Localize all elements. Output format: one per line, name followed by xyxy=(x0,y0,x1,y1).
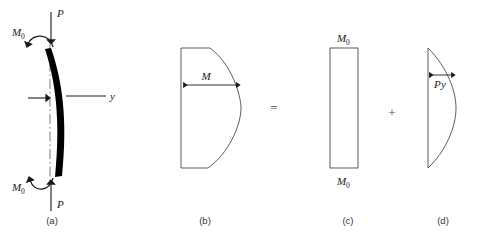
load-label-bottom: P xyxy=(56,198,64,210)
py-dimension-label: P y xyxy=(433,78,446,90)
moment-label-c-top-sub: 0 xyxy=(346,38,350,47)
panel-d-py-moment-diagram: P y (d) xyxy=(428,48,456,226)
py-dimension-label-p: P xyxy=(433,78,441,90)
panel-b-total-moment-diagram: M (b) xyxy=(181,48,241,226)
moment-label-c-bottom-sub: 0 xyxy=(346,181,350,190)
figure-canvas: P M 0 y M 0 xyxy=(0,0,480,240)
figure-container: P M 0 y M 0 xyxy=(0,0,480,240)
load-label-top: P xyxy=(56,7,64,19)
moment-diagram-b-shape xyxy=(181,48,241,168)
caption-panel-c: (c) xyxy=(342,215,353,226)
moment-arc-bottom-path xyxy=(30,178,53,189)
caption-panel-b: (b) xyxy=(199,215,211,226)
moment-label-bottom-sub: 0 xyxy=(21,187,25,196)
buckled-column-beam xyxy=(45,48,64,177)
equals-operator: = xyxy=(270,100,277,115)
moment-diagram-c-rect xyxy=(330,48,358,168)
moment-dimension-label-b: M xyxy=(200,70,211,82)
plus-operator: + xyxy=(388,105,395,120)
panel-c-uniform-moment-diagram: M 0 M 0 (c) xyxy=(330,32,358,226)
deflection-axis-label: y xyxy=(109,90,115,102)
caption-panel-d: (d) xyxy=(437,215,449,226)
moment-label-c-top: M 0 xyxy=(336,32,350,47)
moment-label-top-sub: 0 xyxy=(21,32,25,41)
moment-arc-top xyxy=(28,36,53,47)
moment-label-c-bottom: M 0 xyxy=(336,175,350,190)
moment-label-top: M 0 xyxy=(11,26,25,41)
moment-arc-top-path xyxy=(28,36,53,47)
panel-a-free-body-diagram: P M 0 y M 0 xyxy=(11,7,115,226)
moment-arc-bottom xyxy=(30,178,53,189)
caption-panel-a: (a) xyxy=(46,215,58,226)
moment-diagram-d-shape xyxy=(428,48,456,168)
py-dimension-label-y: y xyxy=(440,78,446,90)
moment-label-bottom: M 0 xyxy=(11,181,25,196)
